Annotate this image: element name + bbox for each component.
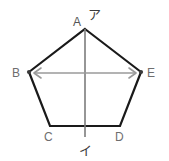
- vertex-dot-e: [139, 70, 143, 74]
- annotation-bottom-i: イ: [79, 143, 92, 158]
- geometry-figure: A B C D E ア イ: [0, 0, 169, 161]
- vertex-dot-b: [27, 70, 31, 74]
- vertex-label-e: E: [147, 66, 155, 80]
- vertex-label-c: C: [44, 130, 53, 144]
- vertex-label-a: A: [73, 15, 81, 29]
- pentagon-diagram-svg: A B C D E ア イ: [0, 0, 169, 161]
- vertex-label-d: D: [115, 130, 124, 144]
- vertex-label-b: B: [12, 66, 20, 80]
- annotation-top-a: ア: [88, 7, 101, 22]
